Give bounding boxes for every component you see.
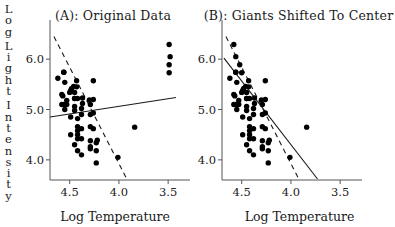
data-point: [79, 126, 84, 131]
data-point: [88, 146, 93, 151]
data-point: [166, 70, 171, 75]
data-point: [260, 112, 265, 117]
data-point: [304, 124, 309, 129]
data-point: [94, 148, 99, 153]
data-point: [244, 108, 249, 113]
y-tick-label: 4.0: [26, 153, 44, 167]
data-point: [75, 148, 80, 153]
data-point: [72, 142, 77, 147]
panel-b-giants-shifted: (B): Giants Shifted To Center 6.05.04.04…: [198, 0, 395, 227]
data-point: [251, 136, 256, 141]
data-point: [68, 114, 73, 119]
data-point: [246, 78, 251, 83]
data-point: [287, 155, 292, 160]
data-point: [237, 62, 242, 67]
data-point: [227, 76, 232, 81]
y-tick-label: 6.0: [198, 52, 216, 66]
data-point: [240, 132, 245, 137]
data-point: [251, 106, 256, 111]
data-point: [75, 132, 80, 137]
panel-a-plot: 6.05.04.04.54.03.5: [0, 0, 200, 227]
data-point: [240, 88, 245, 93]
data-point: [266, 140, 271, 145]
data-point: [247, 132, 252, 137]
data-point: [239, 70, 244, 75]
data-point: [79, 112, 84, 117]
data-point: [251, 112, 256, 117]
data-point: [266, 148, 271, 153]
panel-a-x-axis-label: Log Temperature: [0, 209, 200, 224]
y-tick-label: 4.0: [198, 153, 216, 167]
data-point: [260, 102, 265, 107]
data-point: [74, 78, 79, 83]
data-point: [166, 62, 171, 67]
data-point: [166, 42, 171, 47]
x-tick-label: 4.0: [110, 185, 128, 199]
data-point: [234, 80, 239, 85]
data-point: [80, 95, 85, 100]
data-point: [88, 112, 93, 117]
data-point: [115, 155, 120, 160]
data-point: [61, 70, 66, 75]
data-point: [68, 132, 73, 137]
x-tick-label: 4.0: [282, 185, 300, 199]
data-point: [94, 140, 99, 145]
data-point: [91, 78, 96, 83]
x-tick-label: 3.5: [331, 185, 349, 199]
data-point: [79, 152, 84, 157]
data-point: [231, 102, 236, 107]
least-squares-fit: [224, 58, 318, 179]
data-point: [79, 106, 84, 111]
data-point: [62, 80, 67, 85]
data-point: [266, 160, 271, 165]
x-tick-label: 4.5: [61, 185, 79, 199]
data-point: [251, 126, 256, 131]
data-point: [88, 102, 93, 107]
data-point: [263, 78, 268, 83]
data-point: [62, 107, 67, 112]
data-point: [247, 96, 252, 101]
data-point: [75, 116, 80, 121]
data-point: [247, 116, 252, 121]
data-point: [263, 97, 268, 102]
data-point: [231, 92, 236, 97]
data-point: [247, 148, 252, 153]
panel-a-original-data: (A): Original Data LogLightIntensity 6.0…: [0, 0, 200, 227]
data-point: [75, 96, 80, 101]
data-point: [80, 101, 85, 106]
data-point: [233, 54, 238, 59]
data-point: [233, 70, 238, 75]
data-point: [263, 126, 268, 131]
data-point: [167, 54, 172, 59]
y-tick-label: 5.0: [198, 103, 216, 117]
panel-b-x-axis-label: Log Temperature: [198, 209, 395, 224]
y-tick-label: 5.0: [26, 103, 44, 117]
data-point: [59, 92, 64, 97]
data-point: [68, 88, 73, 93]
data-point: [91, 126, 96, 131]
figure-root: (A): Original Data LogLightIntensity 6.0…: [0, 0, 395, 227]
data-point: [79, 136, 84, 141]
data-point: [88, 138, 93, 143]
data-point: [55, 76, 60, 81]
data-point: [260, 138, 265, 143]
data-point: [74, 84, 79, 89]
data-point: [240, 114, 245, 119]
data-point: [251, 152, 256, 157]
data-point: [72, 108, 77, 113]
data-point: [94, 160, 99, 165]
data-point: [59, 102, 64, 107]
data-point: [234, 107, 239, 112]
y-tick-label: 6.0: [26, 52, 44, 66]
data-point: [252, 95, 257, 100]
x-tick-label: 4.5: [233, 185, 251, 199]
panel-b-plot: 6.05.04.04.54.03.5: [198, 0, 395, 227]
data-point: [132, 124, 137, 129]
data-point: [64, 98, 69, 103]
data-point: [91, 97, 96, 102]
data-point: [244, 142, 249, 147]
data-point: [231, 42, 236, 47]
data-point: [236, 98, 241, 103]
data-point: [246, 84, 251, 89]
data-point: [252, 101, 257, 106]
